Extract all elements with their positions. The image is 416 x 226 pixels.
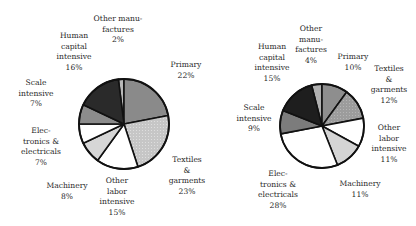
slice-label: Human capital intensive 15% <box>255 42 290 84</box>
slice-label: Scale intensive 9% <box>237 103 272 135</box>
slice-label: Textiles & garments 12% <box>371 64 408 106</box>
slice-label: Primary 10% <box>338 52 369 73</box>
slice-label: Machinery 11% <box>339 179 380 200</box>
pie-chart-right: Other manu- factures 4%Primary 10%Textil… <box>0 0 416 226</box>
slice-label: Other labor intensive 11% <box>372 123 407 165</box>
slice-label: Other manu- factures 4% <box>295 24 327 66</box>
slice-label: Elec- tronics & electricals 28% <box>258 169 298 211</box>
